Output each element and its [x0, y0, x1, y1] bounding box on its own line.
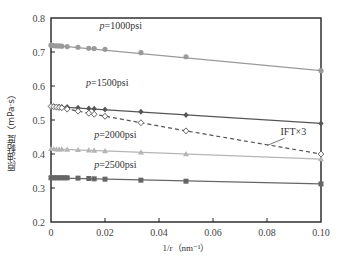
data-point: [183, 54, 188, 59]
data-point: [318, 68, 323, 73]
annotation-layer: p=1000psip=1500psip=2000psip=2500psiIFT×…: [85, 20, 306, 170]
data-point: [65, 44, 70, 49]
data-point: [102, 106, 107, 112]
y-axis-title-wrap: 原油黏度（mPa·s）: [2, 60, 18, 200]
y-tick-label: 0.5: [33, 115, 46, 126]
series-label: IFT×3: [281, 126, 307, 137]
data-point: [138, 178, 143, 183]
data-point: [138, 50, 143, 55]
data-point: [183, 128, 189, 134]
y-axis-title: 原油黏度（mPa·s）: [4, 90, 17, 171]
series-layer: [48, 43, 324, 187]
data-point: [318, 120, 323, 126]
data-point: [184, 179, 189, 184]
y-tick-label: 0.7: [33, 47, 46, 58]
data-point: [75, 108, 81, 114]
data-point: [183, 112, 188, 118]
y-tick-label: 0.6: [33, 81, 46, 92]
series-p-1000psi: [48, 43, 323, 74]
y-tick-label: 0.4: [33, 149, 46, 160]
x-tick-label: 0: [49, 227, 54, 238]
data-point: [102, 113, 108, 119]
data-point: [103, 177, 108, 182]
data-point: [76, 176, 81, 181]
y-tick-label: 0.3: [33, 183, 46, 194]
data-point: [65, 175, 70, 180]
data-point: [92, 46, 97, 51]
data-point: [138, 120, 144, 126]
annotation-leader: [267, 138, 285, 145]
x-axis-title: 1/r（nm⁻¹）: [163, 243, 210, 253]
data-point: [92, 176, 97, 181]
x-tick-label: 0.06: [204, 227, 222, 238]
data-point: [86, 46, 91, 51]
data-point: [138, 109, 143, 115]
data-point: [59, 44, 64, 49]
series-p-2500psi: [49, 175, 324, 186]
x-tick-label: 0.08: [258, 227, 276, 238]
x-tick-label: 0.04: [150, 227, 168, 238]
x-tick-label: 0.10: [312, 227, 330, 238]
y-tick-label: 0.2: [33, 217, 46, 228]
data-point: [86, 176, 91, 181]
data-point: [319, 181, 324, 186]
y-tick-label: 0.8: [33, 13, 46, 24]
series-label: p=1500psi: [85, 77, 129, 88]
data-point: [91, 111, 97, 117]
data-point: [102, 47, 107, 52]
series-p-2000psi: [48, 146, 324, 161]
series-label: p=2000psi: [93, 129, 137, 140]
series-label: p=1000psi: [99, 20, 143, 31]
data-point: [75, 45, 80, 50]
data-point: [86, 110, 92, 116]
x-tick-label: 0.02: [96, 227, 114, 238]
chart: p=1000psip=1500psip=2000psip=2500psiIFT×…: [0, 0, 342, 266]
series-label: p=2500psi: [93, 159, 137, 170]
